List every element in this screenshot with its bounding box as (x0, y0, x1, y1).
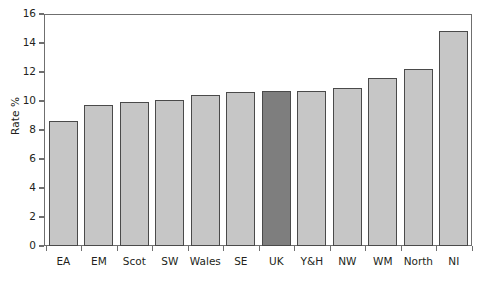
y-tick-mark (39, 216, 44, 217)
x-tick-label: WM (373, 255, 392, 267)
y-tick-label: 4 (29, 181, 36, 193)
y-tick-mark (39, 13, 44, 14)
bar-wm (368, 78, 397, 246)
x-tick-label: NI (448, 255, 459, 267)
bar-slot (49, 14, 78, 246)
y-tick-mark (39, 71, 44, 72)
y-tick-label: 14 (23, 36, 36, 48)
y-tick-label: 2 (29, 210, 36, 222)
bar-em (84, 105, 113, 246)
bar-slot (368, 14, 397, 246)
x-tick-mark (223, 246, 224, 251)
x-tick-label: Y&H (301, 255, 324, 267)
bar-slot (404, 14, 433, 246)
y-tick-label: 16 (23, 7, 36, 19)
y-tick-mark (39, 245, 44, 246)
x-tick-label: Wales (190, 255, 221, 267)
x-tick-mark (330, 246, 331, 251)
bar-ni (439, 31, 468, 246)
x-tick-label: NW (338, 255, 356, 267)
x-tick-label: SE (234, 255, 247, 267)
x-tick-mark (365, 246, 366, 251)
x-tick-mark (188, 246, 189, 251)
x-tick-mark (401, 246, 402, 251)
y-tick-mark (39, 158, 44, 159)
x-tick-label: Scot (123, 255, 146, 267)
bar-slot (191, 14, 220, 246)
x-tick-label: UK (269, 255, 284, 267)
bar-slot (84, 14, 113, 246)
bar-slot (333, 14, 362, 246)
bar-chart: Rate % 0246810121416 EAEMScotSWWalesSEUK… (0, 0, 486, 287)
bar-se (226, 92, 255, 246)
y-tick-label: 10 (23, 94, 36, 106)
bar-slot (262, 14, 291, 246)
bar-ea (49, 121, 78, 246)
bar-slot (297, 14, 326, 246)
x-tick-mark (81, 246, 82, 251)
x-tick-mark (472, 246, 473, 251)
bar-north (404, 69, 433, 246)
bar-wales (191, 95, 220, 246)
x-tick-mark (259, 246, 260, 251)
bar-scot (120, 102, 149, 246)
bar-sw (155, 100, 184, 246)
y-tick-label: 0 (29, 239, 36, 251)
bar-nw (333, 88, 362, 246)
bar-slot (439, 14, 468, 246)
x-tick-label: SW (161, 255, 178, 267)
bar-uk (262, 91, 291, 246)
y-tick-mark (39, 100, 44, 101)
x-tick-mark (436, 246, 437, 251)
x-tick-label: EM (91, 255, 107, 267)
x-tick-mark (152, 246, 153, 251)
y-tick-mark (39, 129, 44, 130)
y-tick-label: 12 (23, 65, 36, 77)
bar-y-h (297, 91, 326, 246)
x-tick-label: North (404, 255, 433, 267)
x-tick-mark (117, 246, 118, 251)
y-tick-label: 8 (29, 123, 36, 135)
bars-container (46, 14, 472, 246)
x-tick-mark (46, 246, 47, 251)
bar-slot (226, 14, 255, 246)
y-axis-title: Rate % (9, 71, 21, 161)
bar-slot (155, 14, 184, 246)
x-tick-mark (294, 246, 295, 251)
y-tick-mark (39, 187, 44, 188)
y-tick-label: 6 (29, 152, 36, 164)
bar-slot (120, 14, 149, 246)
y-tick-mark (39, 42, 44, 43)
x-tick-label: EA (56, 255, 70, 267)
